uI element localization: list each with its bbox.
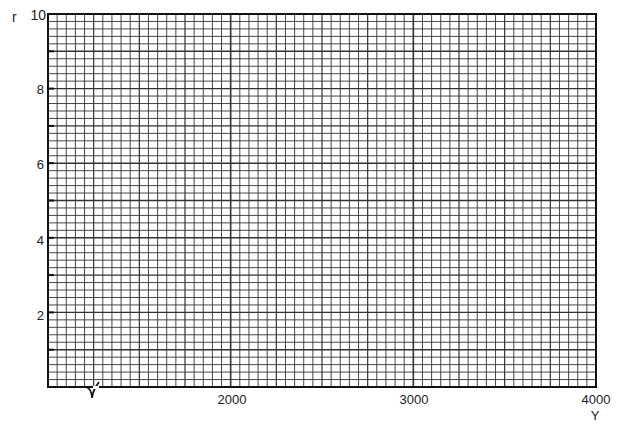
y-tick-4: 4 — [24, 234, 44, 247]
y-tick-8: 8 — [24, 83, 44, 96]
graph-paper-grid — [0, 0, 620, 432]
y-axis-label: r — [12, 10, 17, 24]
axis-break-icon — [86, 382, 99, 398]
x-axis-label: Y — [575, 409, 615, 422]
x-tick-4000: 4000 — [576, 393, 616, 406]
x-tick-2000: 2000 — [212, 393, 252, 406]
y-tick-6: 6 — [24, 158, 44, 171]
x-tick-3000: 3000 — [394, 393, 434, 406]
y-tick-2: 2 — [24, 309, 44, 322]
y-tick-10: 10 — [26, 8, 46, 22]
